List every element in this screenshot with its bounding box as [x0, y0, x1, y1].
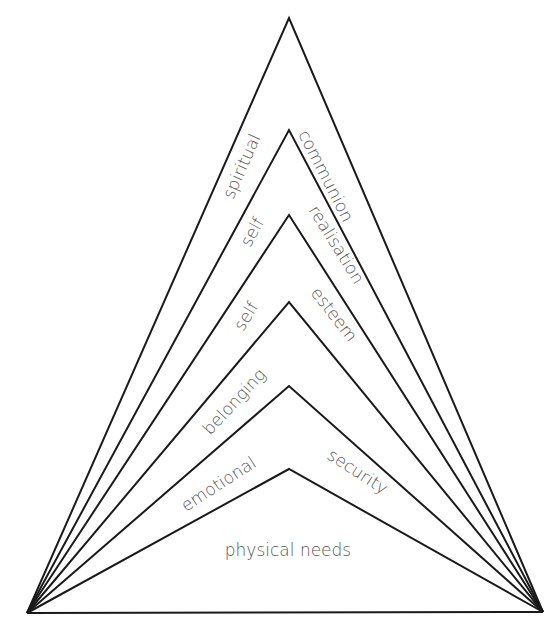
label-security: security — [324, 445, 392, 499]
label-physical-needs: physical needs — [225, 540, 351, 560]
needs-hierarchy-diagram: spiritual communion self realisation sel… — [0, 0, 555, 644]
base-line — [27, 612, 543, 613]
chevron-level-4 — [27, 302, 543, 613]
label-self-esteem-left: self — [229, 298, 262, 334]
label-emotional: emotional — [177, 452, 259, 515]
label-belonging: belonging — [198, 364, 269, 438]
chevron-level-5 — [27, 386, 543, 613]
label-spiritual: spiritual — [218, 131, 264, 202]
outer-triangle — [27, 18, 543, 613]
